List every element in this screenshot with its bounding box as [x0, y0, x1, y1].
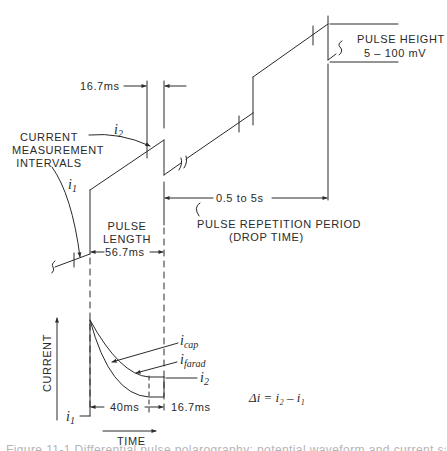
ifarad-label: ifarad [180, 353, 206, 369]
current-measurement-line-1: CURRENT [12, 132, 86, 143]
interval-167ms-label: 16.7ms [171, 402, 211, 413]
current-measurement-line-3: INTERVALS [12, 158, 86, 169]
pulse-height-label: PULSE HEIGHT [357, 34, 445, 45]
delta-i-equation: Δi = i₂ – i₁ [249, 391, 305, 404]
interval-width-label: 16.7ms [80, 81, 120, 92]
interval-40ms-label: 40ms [110, 402, 139, 413]
drop-time-label: (DROP TIME) [229, 232, 304, 243]
i1-top-label: i1 [68, 178, 77, 194]
pulse-height-value: 5 – 100 mV [364, 48, 426, 59]
pulse-length-line-2: LENGTH [100, 234, 154, 245]
pulse-length-line-1: PULSE [100, 221, 154, 232]
differential-pulse-diagram: 16.7ms CURRENT MEASUREMENT INTERVALS i2 … [0, 0, 447, 451]
i2-top-label: i2 [114, 123, 123, 139]
pulse-length-value: 56.7ms [105, 247, 145, 258]
figure-caption: Figure 11-1 Differential pulse polarogra… [6, 443, 446, 451]
repetition-period-label: PULSE REPETITION PERIOD [197, 219, 361, 230]
i2-bottom-label: i2 [200, 371, 209, 387]
pulse-length-label: PULSE LENGTH [100, 221, 154, 245]
icap-label: icap [180, 334, 198, 350]
i1-bottom-label: i1 [66, 410, 75, 426]
current-measurement-line-2: MEASUREMENT [12, 145, 86, 156]
current-measurement-label: CURRENT MEASUREMENT INTERVALS [12, 132, 86, 169]
repetition-period-value: 0.5 to 5s [216, 193, 264, 204]
current-axis-label: CURRENT [42, 334, 53, 392]
